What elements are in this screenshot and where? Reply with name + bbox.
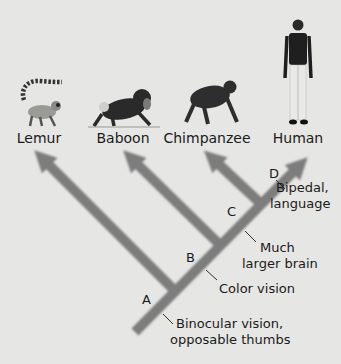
trait-a-line2: opposable thumbs xyxy=(170,332,290,347)
trait-d-line2: language xyxy=(270,196,331,211)
trait-c-line1: Much xyxy=(260,240,295,255)
taxon-label-human: Human xyxy=(253,131,341,146)
node-b-leader xyxy=(206,270,217,280)
lemur-icon xyxy=(23,81,62,126)
trait-c-line2: larger brain xyxy=(242,256,318,271)
baboon-icon xyxy=(88,89,160,127)
taxon-label-lemur: Lemur xyxy=(0,131,84,146)
node-label-d: D xyxy=(269,166,279,181)
chimpanzee-branch xyxy=(212,158,258,201)
trait-b-line1: Color vision xyxy=(219,281,295,296)
trait-a-line1: Binocular vision, xyxy=(176,316,283,331)
baboon-branch xyxy=(131,158,218,243)
node-label-a: A xyxy=(142,292,151,307)
chimpanzee-icon xyxy=(186,81,237,125)
node-label-c: C xyxy=(227,204,236,219)
node-a-leader xyxy=(163,314,173,324)
taxon-label-chimpanzee: Chimpanzee xyxy=(162,131,252,146)
node-c-leader xyxy=(245,231,256,242)
human-icon xyxy=(285,20,311,125)
trait-d-line1: Bipedal, xyxy=(276,180,329,195)
taxon-label-baboon: Baboon xyxy=(78,131,168,146)
node-label-b: B xyxy=(186,250,195,265)
